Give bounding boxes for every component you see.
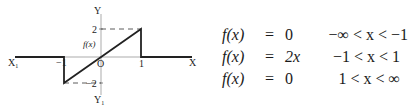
tick-label-y-minus-two: −2	[86, 78, 97, 89]
origin-label: O	[97, 58, 104, 69]
equals-sign: =	[265, 26, 274, 44]
equation-lhs: f(x)	[222, 48, 244, 66]
equation-condition: 1 < x < ∞	[339, 70, 400, 88]
equation-condition: −∞ < x < −1	[329, 26, 408, 44]
x-neg-axis-label: X1	[8, 57, 18, 69]
x-axis-label: X	[189, 57, 197, 68]
function-curve	[15, 29, 192, 83]
equals-sign: =	[265, 70, 274, 88]
tick-label-x-one: 1	[139, 58, 144, 69]
equation-lhs: f(x)	[222, 70, 244, 88]
function-graph: Y Y1 X X1 O −1 1 2 −2 f(x)	[0, 0, 200, 108]
curve-label: f(x)	[83, 39, 96, 49]
equation-rhs: 2x	[285, 48, 300, 66]
equals-sign: =	[265, 48, 274, 66]
equation-row: f(x) = 2x −1 < x < 1	[222, 48, 408, 68]
equation-rhs: 0	[285, 70, 293, 88]
y-axis-label: Y	[94, 5, 101, 16]
equation-row: f(x) = 0 1 < x < ∞	[222, 70, 408, 90]
y-neg-axis-label: Y1	[94, 94, 104, 106]
equation-rhs: 0	[285, 26, 293, 44]
equation-condition: −1 < x < 1	[333, 48, 400, 66]
equation-lhs: f(x)	[222, 26, 244, 44]
tick-label-x-minus-one: −1	[56, 57, 67, 68]
tick-label-y-two: 2	[92, 24, 97, 35]
equation-row: f(x) = 0 −∞ < x < −1	[222, 26, 408, 46]
